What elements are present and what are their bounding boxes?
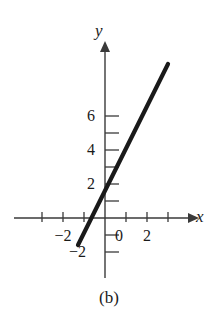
y-axis-arrowhead — [100, 41, 110, 52]
x-tick-label-neg2: −2 — [50, 228, 76, 244]
figure-caption: (b) — [0, 288, 218, 308]
y-tick-label-neg2: −2 — [60, 244, 86, 260]
plot-canvas — [0, 0, 218, 326]
x-tick-label-2: 2 — [134, 228, 160, 244]
y-tick-label-2: 2 — [69, 176, 95, 192]
y-axis-label: y — [95, 22, 103, 39]
y-tick-label-4: 4 — [69, 142, 95, 158]
x-axis-label: x — [196, 208, 204, 225]
x-tick-label-0: 0 — [106, 228, 132, 244]
figure-graph-b: y x 6 4 2 −2 −2 0 2 (b) — [0, 0, 218, 326]
y-tick-label-6: 6 — [69, 108, 95, 124]
